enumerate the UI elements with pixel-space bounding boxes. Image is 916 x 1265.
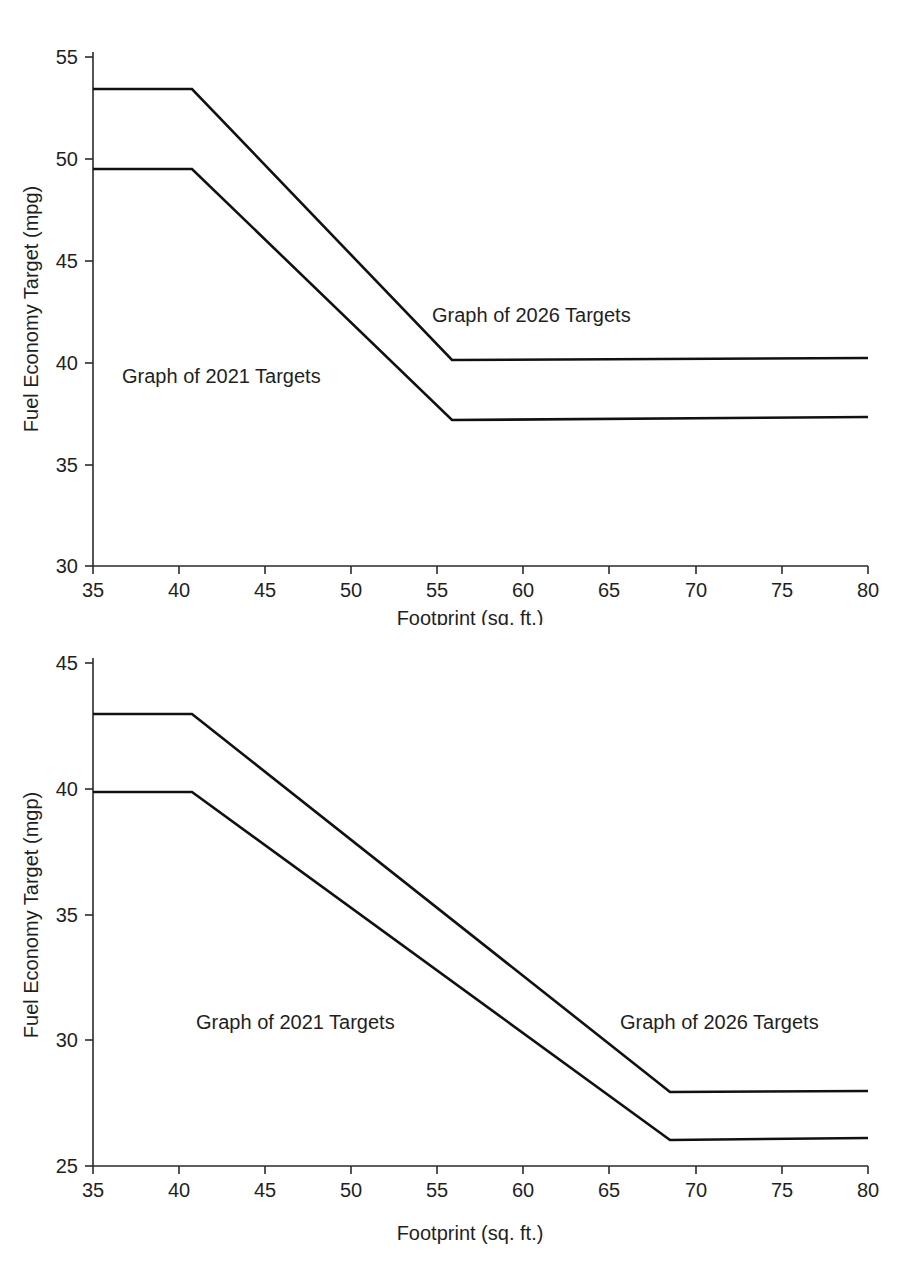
bottom-ytick-label-40: 40 [56,778,78,800]
bottom-xtick-label-50: 50 [340,1179,362,1201]
top-ytick-label-40: 40 [56,352,78,374]
top-ytick-label-30: 30 [56,555,78,577]
top-chart-y-axis-title: Fuel Economy Target (mpg) [20,186,42,432]
top-xtick-label-60: 60 [512,579,534,601]
bottom-chart-canvas: 45 40 35 30 25 35 40 45 50 55 60 65 70 [0,625,916,1265]
bottom-xtick-label-55: 55 [426,1179,448,1201]
top-ytick-label-45: 45 [56,250,78,272]
top-ytick-label-55: 55 [56,46,78,68]
bottom-chart-curve-2021 [93,792,868,1140]
bottom-xtick-label-40: 40 [168,1179,190,1201]
top-xtick-label-75: 75 [771,579,793,601]
figure-page: 55 50 45 40 35 30 35 40 45 50 55 60 65 [0,0,916,1265]
top-chart: 55 50 45 40 35 30 35 40 45 50 55 60 65 [0,0,916,625]
bottom-chart-annotation-2021: Graph of 2021 Targets [196,1011,395,1033]
bottom-xtick-label-75: 75 [771,1179,793,1201]
top-chart-annotation-2026: Graph of 2026 Targets [432,304,631,326]
top-ytick-label-50: 50 [56,148,78,170]
bottom-ytick-label-25: 25 [56,1155,78,1177]
bottom-xtick-label-60: 60 [512,1179,534,1201]
bottom-chart-x-axis-title: Footprint (sq. ft.) [397,1222,544,1244]
top-xtick-label-35: 35 [82,579,104,601]
bottom-ytick-label-45: 45 [56,652,78,674]
bottom-chart-annotation-2026: Graph of 2026 Targets [620,1011,819,1033]
top-xtick-label-45: 45 [254,579,276,601]
top-chart-annotation-2021: Graph of 2021 Targets [122,365,321,387]
top-xtick-label-40: 40 [168,579,190,601]
bottom-xtick-label-35: 35 [82,1179,104,1201]
bottom-xtick-label-65: 65 [598,1179,620,1201]
bottom-chart-curve-2026 [93,714,868,1092]
bottom-chart-axes [93,658,868,1166]
top-xtick-label-70: 70 [685,579,707,601]
bottom-chart-y-axis-title: Fuel Economy Target (mgp) [20,792,42,1038]
bottom-xtick-label-45: 45 [254,1179,276,1201]
bottom-xtick-label-80: 80 [857,1179,879,1201]
top-ytick-label-35: 35 [56,454,78,476]
bottom-ytick-label-30: 30 [56,1029,78,1051]
bottom-chart: 45 40 35 30 25 35 40 45 50 55 60 65 70 [0,625,916,1265]
top-chart-canvas: 55 50 45 40 35 30 35 40 45 50 55 60 65 [0,0,916,625]
bottom-xtick-label-70: 70 [685,1179,707,1201]
top-xtick-label-65: 65 [598,579,620,601]
top-xtick-label-50: 50 [340,579,362,601]
top-xtick-label-55: 55 [426,579,448,601]
top-chart-x-axis-title: Footprint (sq. ft.) [397,607,544,625]
top-xtick-label-80: 80 [857,579,879,601]
bottom-ytick-label-35: 35 [56,904,78,926]
